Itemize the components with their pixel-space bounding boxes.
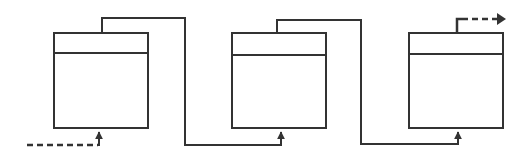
output-connector	[457, 13, 506, 33]
box-3	[409, 33, 503, 128]
box-2-outline	[232, 33, 326, 128]
input-connector	[27, 132, 99, 145]
box1-to-box2-connector	[102, 18, 281, 145]
box2-to-box3-connector	[277, 20, 458, 144]
box-1	[54, 33, 148, 128]
output-arrow-icon	[497, 13, 506, 25]
output-stem	[457, 19, 462, 33]
input-arrow-icon	[98, 132, 99, 145]
box-1-outline	[54, 33, 148, 128]
box-3-outline	[409, 33, 503, 128]
box-2	[232, 33, 326, 128]
flow-diagram	[0, 0, 528, 154]
